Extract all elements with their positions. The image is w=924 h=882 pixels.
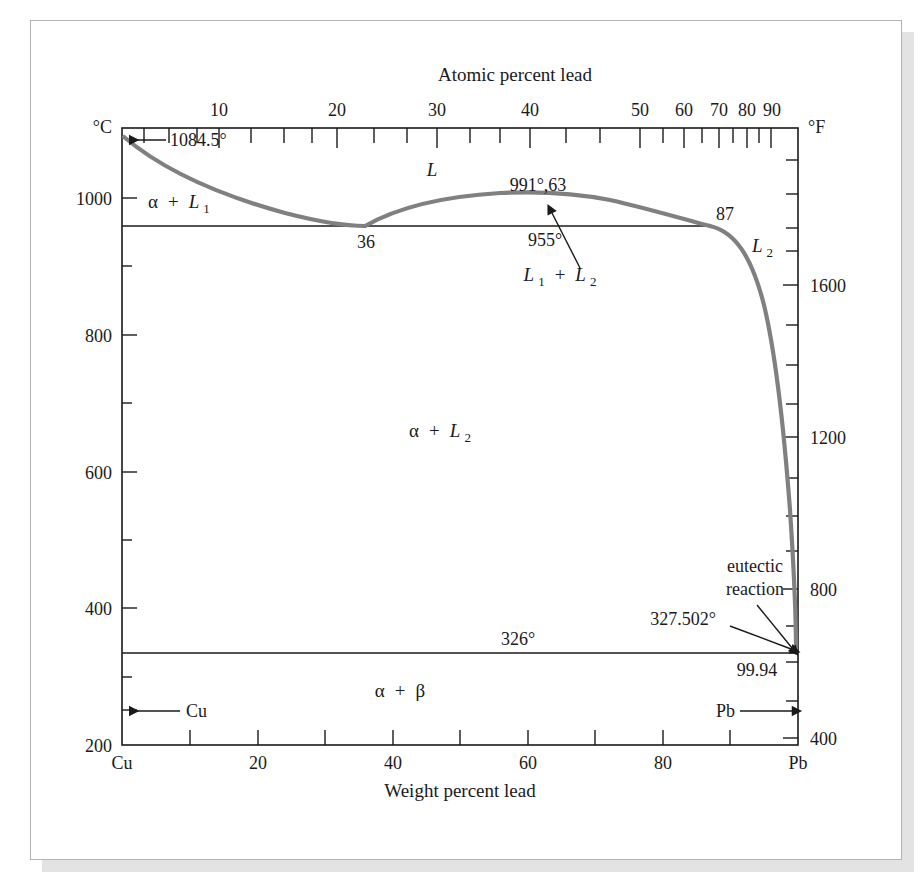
plus-glyph-3: + <box>429 420 440 441</box>
L2-region-glyph: L <box>751 235 763 256</box>
svg-text:L 2: L 2 <box>751 235 773 260</box>
right-tick-label-800: 800 <box>810 580 837 600</box>
bottom-tick-label-40: 40 <box>384 753 402 773</box>
critical-point-label: 991°,63 <box>510 175 567 195</box>
plus-glyph-2: + <box>555 264 566 285</box>
L-subscript: 1 <box>203 201 210 216</box>
L2-subscript: 2 <box>590 274 597 289</box>
bottom-tick-label-cu: Cu <box>111 753 132 773</box>
bottom-axis-ticks <box>190 730 730 745</box>
figure-page: Atomic percent lead 10 20 30 40 50 60 70… <box>0 0 924 882</box>
annotation-eutectic-temp-pure: 327.502° <box>650 609 791 649</box>
top-tick-label-90: 90 <box>763 100 781 120</box>
L-glyph-2: L <box>449 420 461 441</box>
top-axis-ticks <box>144 128 771 148</box>
annotation-cu-side: Cu <box>129 701 207 721</box>
bottom-tick-label-80: 80 <box>654 753 672 773</box>
eutectic-temp-label: 326° <box>501 629 535 649</box>
L2-region-subscript: 2 <box>767 245 774 260</box>
L-glyph: L <box>188 191 200 212</box>
L1-glyph: L <box>523 264 535 285</box>
phase-label-alpha-plus-L1: α + L 1 <box>148 191 210 216</box>
eutectic-reaction-line1: eutectic <box>727 556 783 576</box>
right-tick-label-1600: 1600 <box>810 276 846 296</box>
eutectic-comp-label: 99.94 <box>737 660 778 680</box>
left-tick-label-400: 400 <box>85 599 112 619</box>
eutectic-temp-pure-leader <box>730 626 791 649</box>
top-tick-label-20: 20 <box>328 100 346 120</box>
phase-label-liquid: L <box>426 159 438 180</box>
top-tick-label-80: 80 <box>738 100 756 120</box>
top-tick-label-50: 50 <box>631 100 649 120</box>
phase-label-L2: L 2 <box>751 235 773 260</box>
top-axis-title: Atomic percent lead <box>438 64 593 85</box>
monotectic-right-label: 87 <box>716 204 734 224</box>
celsius-unit-label: °C <box>93 117 112 137</box>
bottom-tick-label-20: 20 <box>249 753 267 773</box>
annotation-eutectic-reaction: eutectic reaction <box>726 556 792 648</box>
monotectic-temp-label: 955° <box>528 230 562 250</box>
bottom-tick-label-pb: Pb <box>788 753 807 773</box>
top-tick-label-60: 60 <box>675 100 693 120</box>
plus-glyph-4: + <box>395 680 406 701</box>
fahrenheit-unit-label: °F <box>808 117 825 137</box>
curve-cu-rich-liquidus <box>124 137 365 226</box>
svg-text:L 1 +: L 1 + L 2 <box>523 264 597 289</box>
phase-diagram-svg: Atomic percent lead 10 20 30 40 50 60 70… <box>0 0 924 882</box>
bottom-axis-title: Weight percent lead <box>384 780 536 801</box>
top-tick-label-70: 70 <box>710 100 728 120</box>
top-tick-label-40: 40 <box>521 100 539 120</box>
monotectic-comp-label: 36 <box>357 232 375 252</box>
phase-label-alpha-plus-L2: α + L 2 <box>409 420 471 445</box>
phase-label-L1-plus-L2: L 1 + L 2 <box>523 264 597 289</box>
left-axis-ticks <box>122 198 137 710</box>
annotation-pb-side: Pb <box>716 701 792 721</box>
top-tick-label-10: 10 <box>210 100 228 120</box>
right-tick-label-400: 400 <box>810 729 837 749</box>
svg-text:α + L: α + L 2 <box>409 420 471 445</box>
curve-miscibility-dome <box>365 192 710 226</box>
left-tick-label-800: 800 <box>85 326 112 346</box>
eutectic-reaction-line2: reaction <box>726 579 784 599</box>
left-tick-label-600: 600 <box>85 463 112 483</box>
L-subscript-2: 2 <box>464 430 471 445</box>
phase-label-alpha-plus-beta: α + β <box>375 680 425 701</box>
alpha-glyph-2: α <box>409 420 419 441</box>
right-tick-label-1200: 1200 <box>810 428 846 448</box>
pb-side-label: Pb <box>716 701 735 721</box>
left-tick-label-1000: 1000 <box>76 189 112 209</box>
plus-glyph: + <box>168 191 179 212</box>
cu-side-label: Cu <box>186 701 207 721</box>
phase-diagram-plot: Atomic percent lead 10 20 30 40 50 60 70… <box>0 0 924 882</box>
bottom-tick-label-60: 60 <box>519 753 537 773</box>
cu-melting-label: 1084.5° <box>170 130 227 150</box>
svg-text:α + β: α + β <box>375 680 425 701</box>
liquidus-curves <box>124 137 796 650</box>
left-tick-label-200: 200 <box>85 736 112 756</box>
alpha-glyph: α <box>148 191 158 212</box>
beta-glyph: β <box>416 680 426 701</box>
top-tick-label-30: 30 <box>428 100 446 120</box>
svg-text:α + L: α + L 1 <box>148 191 210 216</box>
L1-subscript: 1 <box>538 274 545 289</box>
eutectic-temp-pure-label: 327.502° <box>650 609 716 629</box>
alpha-glyph-3: α <box>375 680 385 701</box>
